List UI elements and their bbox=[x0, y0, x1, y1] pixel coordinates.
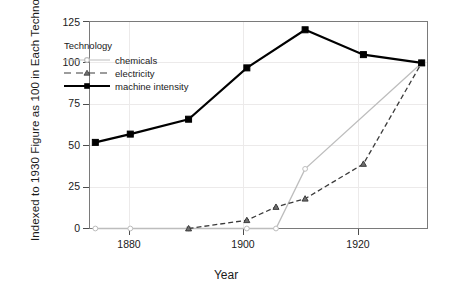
y-axis-title: Indexed to 1930 Figure as 100 in Each Te… bbox=[29, 0, 41, 241]
legend-label-chemicals: chemicals bbox=[115, 55, 157, 66]
legend-item-machine-intensity[interactable]: machine intensity bbox=[64, 80, 188, 92]
legend-item-chemicals[interactable]: chemicals bbox=[64, 54, 188, 66]
x-tick-mark-1880 bbox=[129, 229, 130, 235]
legend-label-machine-intensity: machine intensity bbox=[115, 81, 188, 92]
gridline-y-75 bbox=[90, 104, 427, 105]
x-tick-label-1880: 1880 bbox=[99, 238, 159, 250]
gridline-x-1920 bbox=[358, 22, 359, 228]
chart-figure: Indexed to 1930 Figure as 100 in Each Te… bbox=[0, 0, 452, 292]
legend: Technology chemicals electricity bbox=[64, 40, 188, 93]
legend-key-machine-intensity-icon bbox=[64, 80, 110, 92]
y-tick-label-75: 75 bbox=[20, 97, 80, 109]
x-tick-label-1920: 1920 bbox=[328, 238, 388, 250]
x-tick-mark-1920 bbox=[358, 229, 359, 235]
legend-key-chemicals-icon bbox=[64, 54, 110, 66]
y-tick-label-125: 125 bbox=[20, 16, 80, 28]
gridline-y-50 bbox=[90, 145, 427, 146]
y-tick-label-0: 0 bbox=[20, 222, 80, 234]
x-axis-title: Year bbox=[0, 268, 452, 282]
y-tick-label-25: 25 bbox=[20, 180, 80, 192]
gridline-y-25 bbox=[90, 187, 427, 188]
legend-label-electricity: electricity bbox=[115, 68, 155, 79]
y-tick-label-50: 50 bbox=[20, 139, 80, 151]
x-tick-label-1900: 1900 bbox=[213, 238, 273, 250]
legend-key-electricity-icon bbox=[64, 67, 110, 79]
x-tick-mark-1900 bbox=[243, 229, 244, 235]
legend-title: Technology bbox=[64, 40, 188, 51]
gridline-x-1900 bbox=[243, 22, 244, 228]
legend-item-electricity[interactable]: electricity bbox=[64, 67, 188, 79]
